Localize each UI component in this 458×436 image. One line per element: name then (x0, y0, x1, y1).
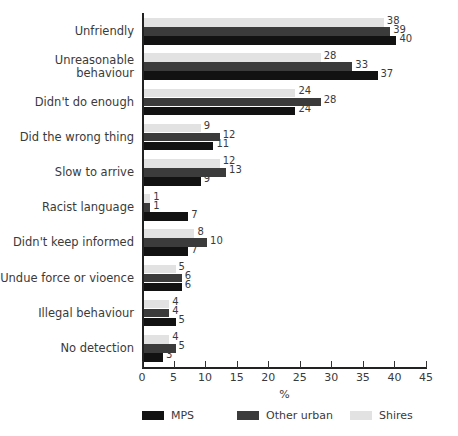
bar-shires (144, 229, 194, 238)
bar-row: 5 (144, 344, 428, 353)
bar-mps (144, 177, 201, 186)
bar-value-label: 9 (204, 120, 210, 131)
x-tick-20 (268, 361, 269, 368)
bar-row: 40 (144, 36, 428, 45)
bar-row: 12 (144, 159, 428, 168)
x-tick-label-45: 45 (406, 371, 446, 384)
bar-row: 9 (144, 177, 428, 186)
bar-row: 12 (144, 133, 428, 142)
bar-other-urban (144, 27, 390, 36)
category-label: Slow to arrive (0, 155, 134, 190)
bar-value-label: 7 (191, 244, 197, 255)
bar-row: 4 (144, 335, 428, 344)
category-group: Unreasonable behaviour283337 (0, 49, 458, 84)
bar-value-label: 33 (355, 59, 368, 70)
bar-row: 4 (144, 300, 428, 309)
legend-item-mps[interactable]: MPS (142, 407, 194, 423)
legend-item-other-urban[interactable]: Other urban (237, 407, 333, 423)
bar-shires (144, 53, 321, 62)
bar-other-urban (144, 62, 352, 71)
bar-row: 7 (144, 247, 428, 256)
bar-mps (144, 247, 188, 256)
bar-shires (144, 18, 384, 27)
x-tick-45 (426, 361, 427, 368)
bar-other-urban (144, 309, 169, 318)
bar-other-urban (144, 133, 220, 142)
bar-row: 5 (144, 318, 428, 327)
bar-row: 1 (144, 194, 428, 203)
category-label: Undue force or vioence (0, 260, 134, 295)
bar-value-label: 13 (229, 164, 242, 175)
bar-other-urban (144, 274, 182, 283)
bar-row: 39 (144, 27, 428, 36)
bar-shires (144, 89, 295, 98)
bar-value-label: 7 (191, 209, 197, 220)
bar-row: 37 (144, 71, 428, 80)
bar-mps (144, 71, 378, 80)
bar-value-label: 11 (216, 138, 229, 149)
bar-row: 13 (144, 168, 428, 177)
category-group: Didn't do enough242824 (0, 84, 458, 119)
category-group: Undue force or vioence566 (0, 260, 458, 295)
bar-mps (144, 318, 176, 327)
bar-row: 38 (144, 18, 428, 27)
bar-value-label: 3 (166, 349, 172, 360)
bar-value-label: 28 (324, 50, 337, 61)
x-tick-35 (363, 361, 364, 368)
bar-row: 6 (144, 283, 428, 292)
bar-shires (144, 300, 169, 309)
bar-row: 28 (144, 98, 428, 107)
bar-value-label: 5 (179, 340, 185, 351)
bar-shires (144, 194, 150, 203)
x-tick-25 (300, 361, 301, 368)
x-tick-30 (331, 361, 332, 368)
category-label: Did the wrong thing (0, 120, 134, 155)
bar-value-label: 24 (298, 85, 311, 96)
grouped-bar-chart: Unfriendly383940Unreasonable behaviour28… (0, 0, 458, 436)
bar-mps (144, 36, 396, 45)
category-label: Didn't do enough (0, 84, 134, 119)
bar-shires (144, 335, 169, 344)
bar-other-urban (144, 238, 207, 247)
legend-label: Other urban (266, 409, 333, 422)
category-label: Racist language (0, 190, 134, 225)
bar-mps (144, 353, 163, 362)
category-group: Unfriendly383940 (0, 14, 458, 49)
bar-row: 1 (144, 203, 428, 212)
bar-row: 7 (144, 212, 428, 221)
bar-value-label: 40 (399, 33, 412, 44)
legend-swatch-icon (350, 411, 372, 420)
x-tick-15 (237, 361, 238, 368)
x-tick-10 (205, 361, 206, 368)
bar-other-urban (144, 98, 321, 107)
bar-value-label: 9 (204, 173, 210, 184)
category-group: Slow to arrive12139 (0, 155, 458, 190)
bar-row: 24 (144, 89, 428, 98)
bar-mps (144, 107, 295, 116)
legend-swatch-icon (142, 411, 164, 420)
category-label: No detection (0, 331, 134, 366)
bar-other-urban (144, 168, 226, 177)
bar-mps (144, 142, 213, 151)
bar-value-label: 28 (324, 94, 337, 105)
legend-item-shires[interactable]: Shires (350, 407, 413, 423)
category-label: Unreasonable behaviour (0, 49, 134, 84)
legend-swatch-icon (237, 411, 259, 420)
bar-shires (144, 124, 201, 133)
bar-value-label: 24 (298, 103, 311, 114)
x-tick-0 (142, 361, 143, 368)
x-tick-5 (174, 361, 175, 368)
bar-value-label: 10 (210, 235, 223, 246)
category-group: Racist language117 (0, 190, 458, 225)
category-label: Illegal behaviour (0, 296, 134, 331)
bar-row: 28 (144, 53, 428, 62)
bar-value-label: 1 (153, 200, 159, 211)
bar-row: 11 (144, 142, 428, 151)
bar-shires (144, 265, 176, 274)
bar-row: 24 (144, 107, 428, 116)
category-group: No detection453 (0, 331, 458, 366)
bar-shires (144, 159, 220, 168)
category-group: Did the wrong thing91211 (0, 120, 458, 155)
category-group: Illegal behaviour445 (0, 296, 458, 331)
category-group: Didn't keep informed8107 (0, 225, 458, 260)
